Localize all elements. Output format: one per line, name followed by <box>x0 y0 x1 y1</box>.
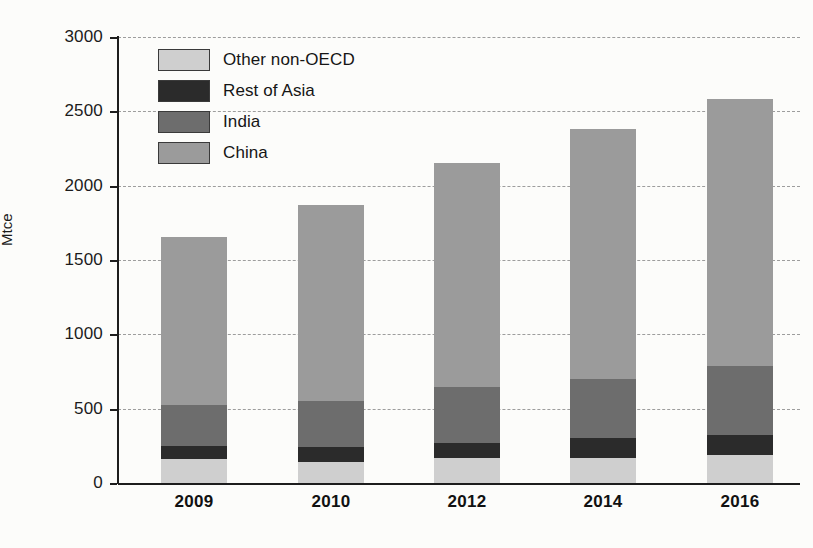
legend-swatch-icon <box>158 49 210 71</box>
bar-group-2010[interactable] <box>298 205 364 483</box>
x-tick-label-2009: 2009 <box>134 492 254 512</box>
bar-segment-india-2014[interactable] <box>570 379 636 438</box>
bar-group-2009[interactable] <box>161 237 227 483</box>
bar-segment-china-2009[interactable] <box>161 237 227 405</box>
y-tick-mark-1500 <box>110 260 117 262</box>
legend-item-rest-of-asia[interactable]: Rest of Asia <box>158 79 355 103</box>
legend-item-other-non-oecd[interactable]: Other non-OECD <box>158 48 355 72</box>
bar-segment-india-2012[interactable] <box>434 387 500 443</box>
bar-segment-other-non-oecd-2016[interactable] <box>707 455 773 483</box>
bar-segment-other-non-oecd-2012[interactable] <box>434 458 500 483</box>
legend-label: Other non-OECD <box>223 50 355 70</box>
y-tick-mark-500 <box>110 409 117 411</box>
y-tick-mark-2500 <box>110 111 117 113</box>
bar-segment-china-2012[interactable] <box>434 163 500 387</box>
y-tick-mark-1000 <box>110 334 117 336</box>
legend-item-india[interactable]: India <box>158 110 355 134</box>
legend-label: China <box>223 143 268 163</box>
x-tick-label-2010: 2010 <box>271 492 391 512</box>
y-tick-label-1500: 1500 <box>43 250 103 270</box>
bar-segment-rest-of-asia-2012[interactable] <box>434 443 500 459</box>
legend-label: Rest of Asia <box>223 81 315 101</box>
bar-group-2012[interactable] <box>434 163 500 483</box>
chart-page: 050010001500200025003000 Mtce 2009201020… <box>0 0 813 548</box>
legend-swatch-icon <box>158 80 210 102</box>
y-tick-mark-0 <box>110 483 117 485</box>
x-tick-label-2016: 2016 <box>680 492 800 512</box>
y-tick-label-1000: 1000 <box>43 324 103 344</box>
y-tick-mark-3000 <box>110 37 117 39</box>
y-tick-label-2000: 2000 <box>43 176 103 196</box>
gridline-3000 <box>118 37 800 38</box>
bar-segment-other-non-oecd-2010[interactable] <box>298 462 364 483</box>
y-tick-mark-2000 <box>110 186 117 188</box>
bar-segment-india-2009[interactable] <box>161 405 227 446</box>
x-axis-baseline <box>118 483 800 485</box>
y-axis-line <box>117 36 119 484</box>
bar-segment-china-2016[interactable] <box>707 99 773 365</box>
x-tick-label-2012: 2012 <box>407 492 527 512</box>
y-tick-label-500: 500 <box>43 399 103 419</box>
x-tick-label-2014: 2014 <box>543 492 663 512</box>
bar-group-2014[interactable] <box>570 129 636 483</box>
bar-segment-india-2016[interactable] <box>707 366 773 435</box>
bar-segment-rest-of-asia-2010[interactable] <box>298 447 364 463</box>
bar-segment-china-2014[interactable] <box>570 129 636 379</box>
bar-segment-other-non-oecd-2014[interactable] <box>570 458 636 483</box>
legend-label: India <box>223 112 260 132</box>
y-axis-title: Mtce <box>0 213 15 246</box>
bar-segment-other-non-oecd-2009[interactable] <box>161 459 227 483</box>
bar-group-2016[interactable] <box>707 99 773 483</box>
bar-segment-rest-of-asia-2009[interactable] <box>161 446 227 459</box>
y-tick-label-2500: 2500 <box>43 101 103 121</box>
legend-swatch-icon <box>158 142 210 164</box>
y-tick-label-3000: 3000 <box>43 27 103 47</box>
y-tick-label-0: 0 <box>43 473 103 493</box>
bar-segment-india-2010[interactable] <box>298 401 364 446</box>
chart-legend: Other non-OECDRest of AsiaIndiaChina <box>158 48 355 165</box>
y-axis-tick-labels: 050010001500200025003000 <box>33 0 103 548</box>
bar-segment-rest-of-asia-2014[interactable] <box>570 438 636 457</box>
legend-item-china[interactable]: China <box>158 141 355 165</box>
legend-swatch-icon <box>158 111 210 133</box>
bar-segment-rest-of-asia-2016[interactable] <box>707 435 773 455</box>
bar-segment-china-2010[interactable] <box>298 205 364 401</box>
